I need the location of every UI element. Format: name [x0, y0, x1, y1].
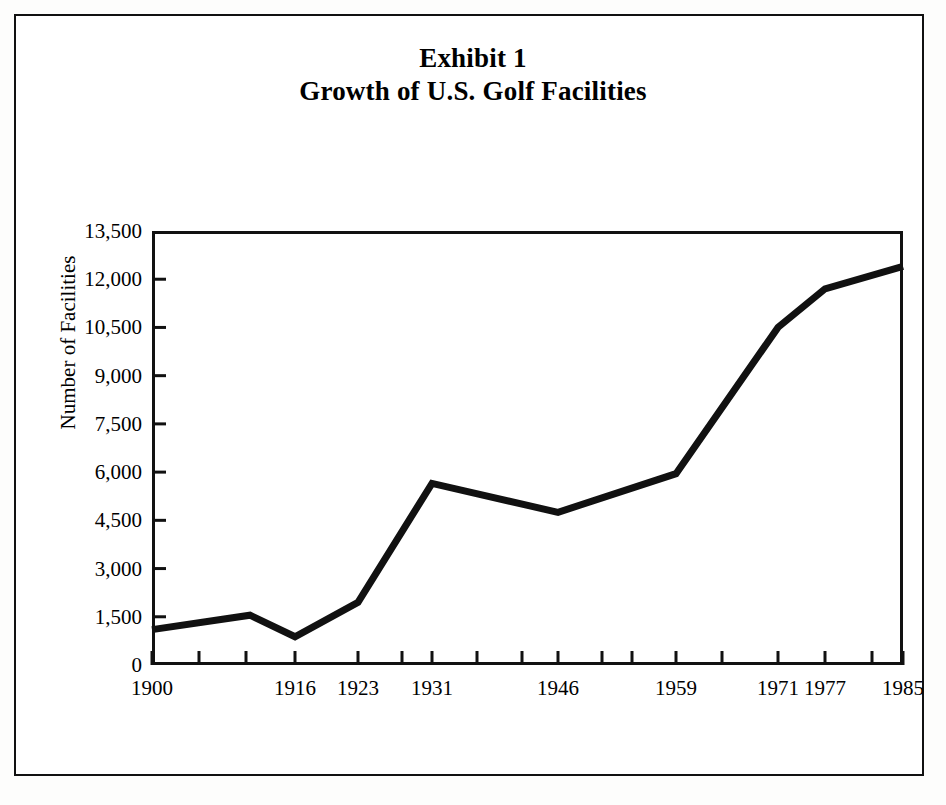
x-tick-label: 1916 — [274, 676, 316, 701]
chart-canvas: 01,5003,0004,5006,0007,5009,00010,50012,… — [0, 0, 946, 805]
x-tick-label: 1931 — [411, 676, 453, 701]
x-tick-label: 1977 — [804, 676, 846, 701]
x-tick-label: 1959 — [655, 676, 697, 701]
x-tick-label: 1900 — [131, 676, 173, 701]
figure-page: Exhibit 1 Growth of U.S. Golf Facilities… — [0, 0, 946, 805]
x-tick-label: 1971 — [757, 676, 799, 701]
x-tick-label: 1985 — [882, 676, 924, 701]
x-tick-label: 1946 — [537, 676, 579, 701]
x-tick-label: 1923 — [337, 676, 379, 701]
x-axis-tick-labels: 190019161923193119461959197119771985 — [0, 0, 946, 805]
